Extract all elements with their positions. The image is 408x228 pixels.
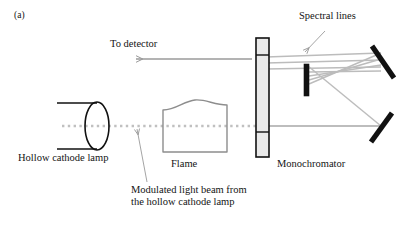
to-detector-label: To detector [110, 38, 157, 50]
beam-group [62, 53, 381, 126]
panel-label: (a) [14, 10, 25, 21]
spectral-lines-leader [305, 31, 325, 52]
modulated-beam-caption: Modulated light beam from the hollow cat… [131, 184, 247, 209]
hollow-cathode-lamp [57, 102, 109, 150]
modulated-beam-caption-line1: Modulated light beam from [131, 184, 247, 196]
modulated-beam-leader [137, 129, 147, 182]
entrance-slit-body [256, 38, 269, 157]
dispersed-ray-4 [309, 71, 381, 72]
upper-mirror [372, 46, 394, 78]
monochromator-label: Monochromator [277, 158, 345, 170]
monochromator-entrance-slit [256, 38, 269, 157]
figure-canvas: (a) To detector Spectral lines Hollow ca… [0, 0, 408, 228]
modulated-beam-caption-line2: the hollow cathode lamp [131, 196, 247, 208]
hollow-cathode-lamp-label: Hollow cathode lamp [18, 152, 108, 164]
lower-mirror [371, 113, 392, 142]
spectral-lines-label: Spectral lines [299, 10, 356, 22]
flame-label: Flame [171, 158, 197, 170]
exit-slit-bar [304, 64, 309, 96]
spectral-ray-1 [266, 53, 381, 57]
